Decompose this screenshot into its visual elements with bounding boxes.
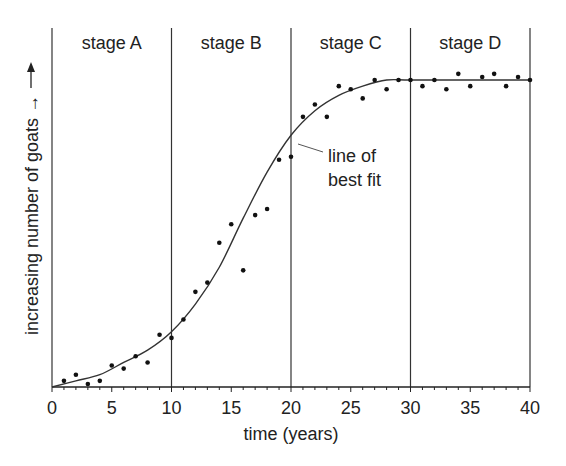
data-point <box>277 158 282 163</box>
stage-label: stage C <box>320 33 382 53</box>
data-point <box>109 363 114 368</box>
x-tick-label: 10 <box>161 398 181 418</box>
data-point <box>74 372 79 377</box>
data-point <box>62 379 67 384</box>
data-point <box>265 207 270 212</box>
data-point <box>169 336 174 341</box>
stage-label: stage A <box>82 33 142 53</box>
data-point <box>121 366 126 371</box>
data-point <box>325 115 330 120</box>
data-point <box>492 72 497 77</box>
arrow-up-icon <box>27 62 35 72</box>
data-point <box>432 78 437 83</box>
data-point <box>217 240 222 245</box>
data-point <box>456 72 461 77</box>
x-tick-label: 5 <box>107 398 117 418</box>
x-tick-label: 20 <box>281 398 301 418</box>
stage-label: stage D <box>439 33 501 53</box>
stage-label: stage B <box>201 33 262 53</box>
data-point <box>480 75 485 80</box>
data-point <box>157 333 162 338</box>
data-point <box>528 78 533 83</box>
data-point <box>98 379 103 384</box>
data-point <box>241 268 246 273</box>
data-point <box>133 354 138 359</box>
data-point <box>504 84 509 89</box>
data-point <box>301 115 306 120</box>
data-point <box>360 96 365 101</box>
data-point <box>516 75 521 80</box>
data-points <box>62 72 533 387</box>
x-tick-label: 30 <box>400 398 420 418</box>
x-tick-label: 15 <box>221 398 241 418</box>
axes <box>27 62 530 387</box>
data-point <box>205 280 210 285</box>
y-axis-label: increasing number of goats → <box>22 95 42 335</box>
data-point <box>408 78 413 83</box>
goat-population-chart: stage Astage Bstage Cstage D 05101520253… <box>0 0 566 466</box>
x-tick-label: 25 <box>341 398 361 418</box>
stage-dividers <box>52 28 530 387</box>
data-point <box>289 154 294 159</box>
data-point <box>396 78 401 83</box>
data-point <box>372 78 377 83</box>
x-tick-label: 0 <box>47 398 57 418</box>
x-ticks: 0510152025303540 <box>47 387 540 418</box>
data-point <box>253 213 258 218</box>
data-point <box>444 87 449 92</box>
x-axis-label: time (years) <box>243 424 338 444</box>
data-point <box>86 382 91 387</box>
data-point <box>229 222 234 227</box>
x-tick-label: 35 <box>460 398 480 418</box>
data-point <box>348 87 353 92</box>
best-fit-annotation: line ofbest fit <box>298 144 381 190</box>
data-point <box>145 360 150 365</box>
data-point <box>181 317 186 322</box>
data-point <box>193 290 198 295</box>
svg-text:best fit: best fit <box>328 170 381 190</box>
data-point <box>420 84 425 89</box>
data-point <box>384 87 389 92</box>
data-point <box>337 84 342 89</box>
svg-text:line of: line of <box>328 146 377 166</box>
data-point <box>468 84 473 89</box>
data-point <box>313 102 318 107</box>
x-tick-label: 40 <box>520 398 540 418</box>
